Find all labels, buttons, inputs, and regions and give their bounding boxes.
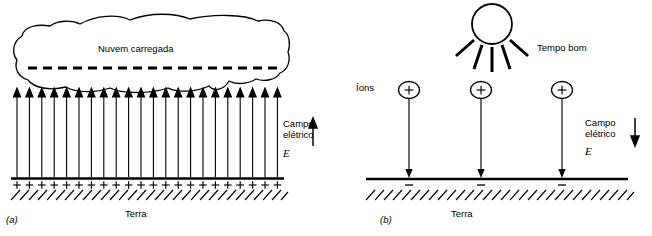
electric-field-symbol-a: E⃗ xyxy=(283,148,298,159)
electric-field-arrows-up xyxy=(13,88,281,177)
ground-label-a: Terra xyxy=(125,208,147,219)
ground-hatching-b xyxy=(366,190,634,200)
panel-a-charged-cloud: Nuvem carregada Campo elétrico E⃗ Terra … xyxy=(0,0,326,236)
electric-field-symbol-b: E⃗ xyxy=(585,146,600,157)
ion-1 xyxy=(399,82,420,179)
ion-3 xyxy=(552,82,573,179)
ions-label: Íons xyxy=(356,82,374,93)
sun-icon xyxy=(472,4,512,44)
field-direction-arrow-down-b xyxy=(631,118,639,146)
figure-atmospheric-electric-field: Nuvem carregada Campo elétrico E⃗ Terra … xyxy=(0,0,652,236)
cloud-label: Nuvem carregada xyxy=(98,43,174,54)
electric-field-label-a: Campo elétrico xyxy=(283,118,314,140)
electric-field-label-b: Campo elétrico xyxy=(585,117,616,139)
ground-label-b: Terra xyxy=(451,208,473,219)
ion-2 xyxy=(471,82,492,179)
fair-weather-label: Tempo bom xyxy=(537,42,587,53)
ground-hatching-a xyxy=(11,190,288,200)
panel-letter-b: (b) xyxy=(380,214,392,225)
panel-letter-a: (a) xyxy=(6,214,18,225)
panel-a-graphics xyxy=(0,0,326,236)
panel-b-fair-weather: Íons Tempo bom Campo elétrico E⃗ Terra (… xyxy=(326,0,652,236)
ground-positive-charges xyxy=(13,181,281,189)
